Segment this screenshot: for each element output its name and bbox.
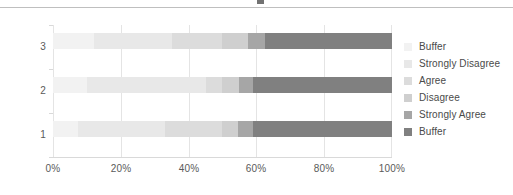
x-axis-label-100: 100% bbox=[367, 163, 417, 174]
x-axis-label-40: 40% bbox=[164, 163, 214, 174]
bar-segment[interactable] bbox=[53, 33, 94, 49]
legend-item[interactable]: Buffer bbox=[404, 38, 512, 55]
bar-segment[interactable] bbox=[165, 121, 223, 137]
legend-swatch-icon bbox=[404, 94, 412, 102]
bar-segment[interactable] bbox=[239, 77, 253, 93]
x-axis-line bbox=[53, 157, 392, 158]
clipped-title-fragment bbox=[257, 0, 264, 4]
bar-segment[interactable] bbox=[222, 77, 239, 93]
chart-legend: BufferStrongly DisagreeAgreeDisagreeStro… bbox=[404, 38, 512, 140]
x-axis-label-80: 80% bbox=[299, 163, 349, 174]
page-top-divider bbox=[0, 7, 513, 8]
x-axis-label-60: 60% bbox=[231, 163, 281, 174]
plot-area bbox=[53, 25, 392, 157]
bar-row-2[interactable] bbox=[53, 77, 392, 93]
y-axis-label-3: 3 bbox=[6, 41, 46, 52]
x-axis-label-20: 20% bbox=[96, 163, 146, 174]
legend-item[interactable]: Buffer bbox=[404, 123, 512, 140]
bar-segment[interactable] bbox=[53, 121, 78, 137]
legend-item[interactable]: Strongly Agree bbox=[404, 106, 512, 123]
legend-swatch-icon bbox=[404, 60, 412, 68]
bar-segment[interactable] bbox=[253, 77, 392, 93]
bar-segment[interactable] bbox=[238, 121, 253, 137]
bar-segment[interactable] bbox=[206, 77, 223, 93]
bar-segment[interactable] bbox=[222, 33, 247, 49]
legend-swatch-icon bbox=[404, 77, 412, 85]
legend-item[interactable]: Strongly Disagree bbox=[404, 55, 512, 72]
legend-item[interactable]: Agree bbox=[404, 72, 512, 89]
bar-row-1[interactable] bbox=[53, 121, 392, 137]
chart-container: 3 2 1 0% 20% 40% 60% 80% 100% BufferStro… bbox=[0, 0, 513, 195]
legend-item-label: Buffer bbox=[419, 41, 446, 52]
legend-item-label: Strongly Agree bbox=[419, 109, 486, 120]
y-axis-label-2: 2 bbox=[6, 85, 46, 96]
bar-segment[interactable] bbox=[53, 77, 87, 93]
bar-segment[interactable] bbox=[265, 33, 392, 49]
legend-item-label: Disagree bbox=[419, 92, 460, 103]
y-axis-label-1: 1 bbox=[6, 129, 46, 140]
bar-segment[interactable] bbox=[94, 33, 172, 49]
bar-segment[interactable] bbox=[248, 33, 265, 49]
legend-swatch-icon bbox=[404, 111, 412, 119]
x-axis-label-0: 0% bbox=[28, 163, 78, 174]
bar-segment[interactable] bbox=[87, 77, 206, 93]
legend-item-label: Agree bbox=[419, 75, 446, 86]
legend-item[interactable]: Disagree bbox=[404, 89, 512, 106]
bar-segment[interactable] bbox=[172, 33, 223, 49]
bar-segment[interactable] bbox=[253, 121, 392, 137]
legend-item-label: Buffer bbox=[419, 126, 446, 137]
bar-segment[interactable] bbox=[78, 121, 164, 137]
bar-row-3[interactable] bbox=[53, 33, 392, 49]
legend-swatch-icon bbox=[404, 43, 412, 51]
legend-swatch-icon bbox=[404, 128, 412, 136]
bar-segment[interactable] bbox=[222, 121, 237, 137]
legend-item-label: Strongly Disagree bbox=[419, 58, 500, 69]
